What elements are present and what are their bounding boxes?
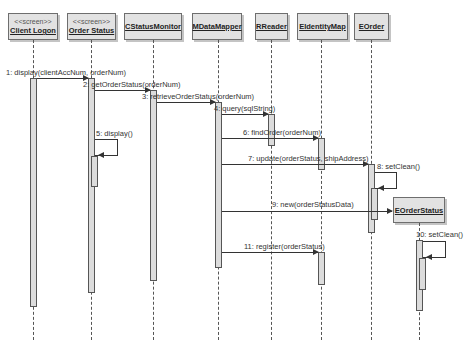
activation-order-status-nested — [91, 156, 98, 187]
message-arrow-2 — [95, 90, 150, 91]
object-name: EOrderStatus — [395, 206, 443, 215]
message-arrow-7 — [222, 164, 368, 165]
object-name: RReader — [256, 22, 287, 31]
object-client-logon: <<screen>> Client Logon — [8, 13, 58, 40]
object-cstatusmonitor: CStatusMonitor — [124, 13, 182, 40]
object-name: Order Status — [69, 26, 114, 35]
message-arrow-3 — [157, 102, 215, 103]
activation-cstatusmonitor — [150, 90, 157, 281]
activation-client-logon — [30, 78, 37, 307]
object-order-status: <<screen>> Order Status — [67, 13, 116, 40]
message-arrowhead-5 — [98, 152, 104, 158]
message-arrowhead-10 — [426, 254, 432, 260]
object-name: EIdentityMap — [299, 22, 346, 31]
stereotype-label: <<screen>> — [14, 18, 51, 26]
object-name: Client Logon — [10, 26, 56, 35]
lifeline-eidentitymap — [321, 40, 322, 340]
object-name: EOrder — [359, 22, 384, 31]
lifeline-rreader — [271, 40, 272, 340]
message-arrow-11 — [222, 252, 318, 253]
stereotype-label: <<screen>> — [73, 18, 110, 26]
message-arrow-6 — [222, 138, 318, 139]
message-arrow-4 — [222, 114, 268, 115]
message-label-8: 8: setClean() — [377, 162, 420, 171]
message-label-10: 10: setClean() — [416, 230, 463, 239]
object-rreader: RReader — [255, 13, 288, 40]
activation-mdatamapper — [215, 102, 222, 268]
message-arrow-9 — [222, 211, 392, 212]
message-label-3: 3: retrieveOrderStatus(orderNum) — [142, 92, 254, 101]
object-name: CStatusMonitor — [125, 22, 181, 31]
message-arrowhead-8 — [378, 185, 384, 191]
message-label-1: 1: display(clientAccNum, orderNum) — [6, 68, 126, 77]
message-label-5: 5: display() — [96, 129, 133, 138]
message-arrow-1 — [37, 78, 88, 79]
message-label-7: 7: update(orderStatus, shipAddress) — [248, 154, 368, 163]
object-mdatamapper: MDataMapper — [192, 13, 242, 40]
activation-eidentitymap-2 — [318, 252, 325, 285]
message-label-9: 9: new(orderStatusData) — [272, 200, 354, 209]
object-eorderstatus: EOrderStatus — [393, 197, 445, 223]
message-label-6: 6: findOrder(orderNum) — [243, 128, 321, 137]
activation-eorderstatus-nested — [419, 258, 426, 290]
message-label-2: 2: getOrderStatus(orderNum) — [83, 80, 181, 89]
object-eorder: EOrder — [354, 13, 389, 40]
object-name: MDataMapper — [192, 22, 241, 31]
object-eidentitymap: EIdentityMap — [297, 13, 348, 40]
activation-eorder-nested — [371, 188, 378, 220]
